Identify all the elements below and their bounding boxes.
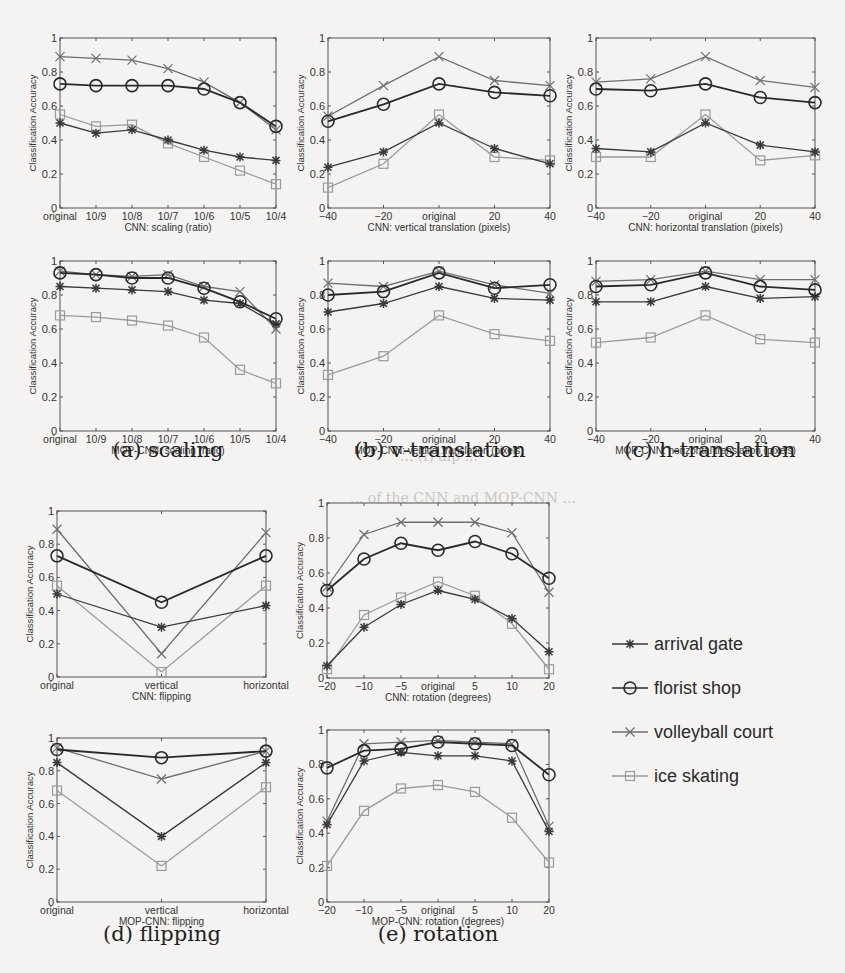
svg-text:0.2: 0.2 (309, 637, 324, 649)
x-marker-icon (610, 722, 650, 742)
svg-text:1: 1 (319, 32, 325, 44)
series-ice-skating (592, 311, 820, 347)
svg-text:Classification Accuracy: Classification Accuracy (27, 297, 38, 394)
svg-text:1: 1 (51, 32, 57, 44)
svg-text:0.8: 0.8 (39, 538, 54, 550)
plot-mop-flip: 00.20.40.60.81originalverticalhorizontal… (24, 732, 289, 927)
svg-text:1: 1 (319, 255, 325, 267)
series-ice-skating (592, 110, 820, 165)
svg-text:1: 1 (318, 724, 324, 736)
plot-cnn-scaling: 00.20.40.60.81original10/910/810/710/610… (27, 32, 286, 233)
svg-text:0.6: 0.6 (578, 100, 593, 112)
svg-text:0.2: 0.2 (578, 391, 593, 403)
series-ice-skating (324, 311, 555, 380)
legend-label: volleyball court (654, 722, 773, 743)
svg-text:0.6: 0.6 (309, 793, 324, 805)
series-ice-skating (323, 781, 554, 871)
svg-text:original: original (40, 679, 74, 691)
svg-text:−5: −5 (395, 904, 407, 916)
svg-text:20: 20 (489, 210, 501, 222)
svg-text:Classification Accuracy: Classification Accuracy (24, 771, 35, 868)
caption-flipping: (d) flipping (62, 922, 262, 946)
svg-text:0.2: 0.2 (310, 391, 325, 403)
svg-text:1: 1 (587, 32, 593, 44)
figure: ... (f) alp ... ... of the CNN and MOP-C… (0, 0, 845, 973)
svg-text:CNN: vertical translation (pix: CNN: vertical translation (pixels) (368, 222, 511, 233)
svg-text:0.4: 0.4 (39, 830, 54, 842)
series-florist-shop (590, 78, 821, 109)
series-florist-shop (51, 550, 272, 608)
svg-text:Classification Accuracy: Classification Accuracy (294, 767, 305, 864)
svg-text:10/9: 10/9 (86, 210, 107, 222)
svg-text:1: 1 (587, 255, 593, 267)
svg-text:0.4: 0.4 (42, 134, 57, 146)
svg-text:0.6: 0.6 (42, 323, 57, 335)
svg-text:10/7: 10/7 (158, 210, 179, 222)
series-arrival-gate (53, 758, 271, 841)
svg-text:original: original (421, 904, 455, 916)
svg-text:CNN: scaling (ratio): CNN: scaling (ratio) (124, 222, 211, 233)
svg-text:Classification Accuracy: Classification Accuracy (295, 74, 306, 171)
svg-text:0.4: 0.4 (309, 827, 324, 839)
svg-text:0.6: 0.6 (310, 323, 325, 335)
svg-text:0.8: 0.8 (578, 289, 593, 301)
series-volleyball-court (592, 52, 820, 92)
svg-text:0.4: 0.4 (310, 357, 325, 369)
series-ice-skating (56, 311, 281, 388)
svg-text:0.8: 0.8 (310, 66, 325, 78)
svg-text:−20: −20 (318, 904, 336, 916)
svg-text:original: original (421, 680, 455, 692)
caption-h-translation: (c) h-translation (595, 438, 825, 462)
plot-cnn-vtrans: 00.20.40.60.81−40−20original2040CNN: ver… (295, 32, 556, 233)
series-ice-skating (56, 110, 281, 189)
svg-text:5: 5 (472, 680, 478, 692)
series-arrival-gate (592, 119, 820, 157)
svg-text:−5: −5 (395, 680, 407, 692)
svg-text:0.8: 0.8 (309, 532, 324, 544)
svg-text:Classification Accuracy: Classification Accuracy (27, 74, 38, 171)
svg-text:5: 5 (472, 904, 478, 916)
caption-v-translation: (b) v-translation (325, 438, 555, 462)
svg-text:0.8: 0.8 (42, 289, 57, 301)
series-volleyball-court (56, 267, 281, 334)
svg-text:vertical: vertical (145, 904, 178, 916)
svg-text:0.2: 0.2 (39, 638, 54, 650)
plot-mop-vtrans: 00.20.40.60.81−40−20original2040MOP-CNN:… (295, 255, 556, 456)
svg-text:1: 1 (48, 505, 54, 517)
svg-text:0.6: 0.6 (39, 571, 54, 583)
asterisk-marker-icon (610, 634, 650, 654)
svg-text:20: 20 (754, 210, 766, 222)
svg-text:original: original (43, 210, 77, 222)
svg-text:20: 20 (543, 680, 555, 692)
svg-text:−20: −20 (642, 210, 660, 222)
svg-text:0.8: 0.8 (578, 66, 593, 78)
svg-text:CNN: horizontal translation (p: CNN: horizontal translation (pixels) (628, 222, 783, 233)
series-arrival-gate (324, 119, 555, 172)
svg-text:0.2: 0.2 (578, 168, 593, 180)
svg-text:1: 1 (48, 732, 54, 744)
series-volleyball-court (56, 52, 281, 134)
svg-text:vertical: vertical (145, 679, 178, 691)
legend-item-arrival-gate: arrival gate (610, 622, 773, 666)
svg-text:CNN: rotation (degrees): CNN: rotation (degrees) (385, 692, 491, 703)
legend-item-volleyball-court: volleyball court (610, 710, 773, 754)
svg-text:−10: −10 (355, 904, 373, 916)
svg-text:horizontal: horizontal (243, 679, 289, 691)
svg-text:−10: −10 (355, 680, 373, 692)
series-florist-shop (51, 743, 272, 763)
svg-text:−40: −40 (319, 210, 337, 222)
svg-text:0.2: 0.2 (39, 863, 54, 875)
svg-text:20: 20 (543, 904, 555, 916)
svg-text:horizontal: horizontal (243, 904, 289, 916)
svg-text:−40: −40 (587, 210, 605, 222)
svg-text:40: 40 (809, 210, 821, 222)
series-arrival-gate (56, 119, 281, 165)
svg-text:0.4: 0.4 (39, 605, 54, 617)
legend-label: florist shop (654, 678, 741, 699)
svg-text:10/6: 10/6 (194, 210, 215, 222)
svg-text:1: 1 (318, 497, 324, 509)
svg-text:original: original (422, 210, 456, 222)
svg-text:0.6: 0.6 (42, 100, 57, 112)
plot-mop-scaling: 00.20.40.60.81original10/910/810/710/610… (27, 255, 286, 456)
svg-text:0.4: 0.4 (309, 602, 324, 614)
